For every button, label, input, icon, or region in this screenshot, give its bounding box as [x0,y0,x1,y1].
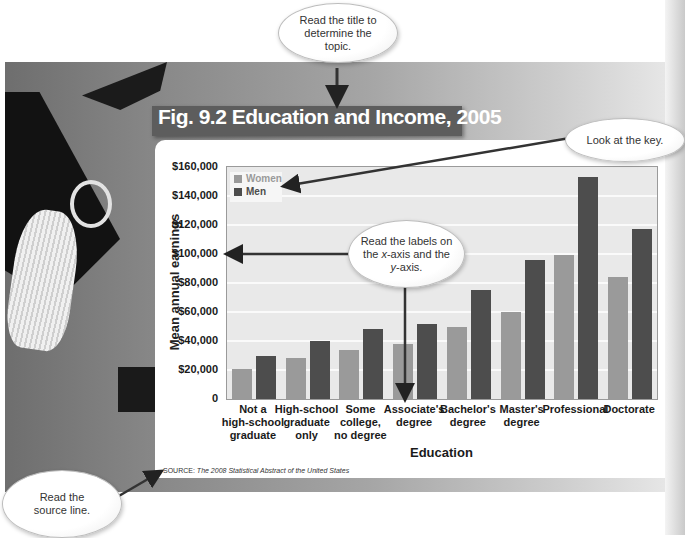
callout-axes: Read the labels on the x-axis and the y-… [348,220,465,288]
key-arrow-icon [285,138,570,186]
callout-axes-text: Read the labels on the x-axis and the y-… [361,235,453,274]
callout-title: Read the title to determine the topic. [278,3,398,63]
callout-key: Look at the key. [565,118,685,162]
callout-source: Read the source line. [2,470,122,538]
callout-axes-part: -axis. [396,261,422,273]
callout-axes-part: -axis and the [387,248,450,260]
callout-title-text: Read the title to determine the topic. [296,14,380,53]
callout-source-text: Read the source line. [27,491,97,517]
callout-key-text: Look at the key. [587,134,664,147]
